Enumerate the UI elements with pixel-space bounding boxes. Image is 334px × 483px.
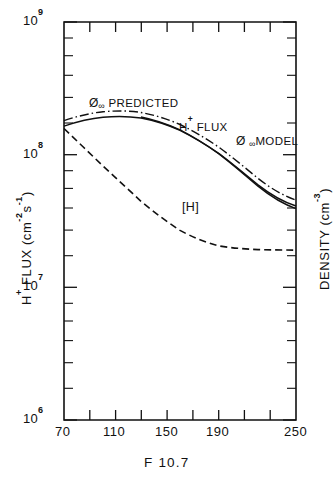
phi-symbol-icon: Ø [236,134,245,148]
phi-symbol-icon: Ø [89,96,98,110]
y-axis-decade-10e8: 108 [23,145,43,161]
x-tick-label-150: 150 [155,424,178,439]
y-axis-decade-10e9: 109 [23,12,43,28]
bottom-axis-ticks [90,410,270,420]
y-axis-title-left: H+ FLUX (cm-2s-1) [18,191,34,305]
axis-frame [64,22,296,420]
figure-container: 109 108 107 106 70 110 150 190 250 F 10.… [0,0,334,483]
chart-plot-area [0,0,334,483]
annotation-h-plus-flux: H+ FLUX [179,118,228,133]
right-axis-ticks [283,22,296,420]
annotation-h-density: [H] [182,200,199,214]
infinity-symbol-icon: ∞ [98,101,104,111]
y-axis-decade-10e6: 106 [23,410,43,426]
annotation-phi-predicted: Ø∞ PREDICTED [89,96,178,110]
x-tick-label-190: 190 [206,424,229,439]
x-tick-label-250: 250 [284,424,307,439]
x-tick-label-70: 70 [55,424,70,439]
infinity-symbol-icon: ∞ [249,139,255,149]
y-axis-title-right: DENSITY (cm-3) [316,188,332,290]
x-axis-title: F 10.7 [144,455,189,470]
x-tick-label-110: 110 [103,424,125,439]
top-axis-ticks [90,22,270,32]
annotation-phi-model: Ø ∞MODEL [236,134,298,148]
left-axis-ticks [64,22,77,420]
